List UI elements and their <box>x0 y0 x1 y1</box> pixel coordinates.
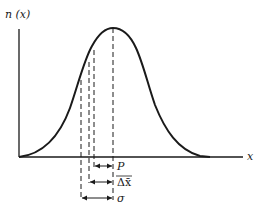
sigma-label: σ <box>117 192 125 205</box>
delta-x-label: Δx̄ <box>117 176 132 189</box>
distribution-diagram: n (x) x P Δx̄ σ <box>0 0 262 216</box>
y-axis-label: n (x) <box>5 8 30 21</box>
x-axis-label: x <box>247 150 254 163</box>
distribution-curve <box>19 28 210 157</box>
p-label: P <box>116 160 125 173</box>
